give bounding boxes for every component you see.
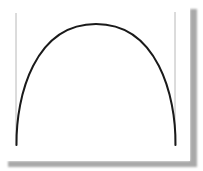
figure-canvas — [0, 0, 203, 171]
arch-diagram — [0, 0, 203, 171]
